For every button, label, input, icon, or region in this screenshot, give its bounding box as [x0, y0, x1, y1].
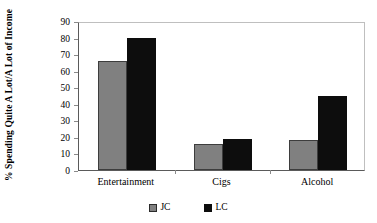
- bar-cigs-jc: [194, 144, 223, 170]
- x-axis-label-cigs: Cigs: [212, 176, 230, 187]
- y-axis-tick-label: 60: [46, 67, 70, 77]
- y-axis-tick-label: 80: [46, 34, 70, 44]
- y-axis-tick-label: 30: [46, 116, 70, 126]
- gray-swatch-icon: [149, 204, 157, 212]
- chart-legend: JCLC: [0, 200, 377, 216]
- legend-label-jc: JC: [160, 203, 170, 213]
- plot-area: [78, 22, 365, 171]
- black-swatch-icon: [204, 204, 212, 212]
- y-axis-tick-label: 20: [46, 133, 70, 143]
- x-axis-category-separator: [175, 170, 176, 174]
- x-axis-category-separator: [270, 170, 271, 174]
- bar-alcohol-lc: [318, 96, 347, 171]
- y-axis-tick-label: 0: [46, 166, 70, 176]
- x-axis-label-alcohol: Alcohol: [301, 176, 333, 187]
- y-axis-ticks: 9080706050403020100: [0, 0, 78, 223]
- x-axis-label-entertainment: Entertainment: [98, 176, 155, 187]
- bar-cigs-lc: [223, 139, 252, 170]
- bar-alcohol-jc: [289, 140, 318, 170]
- x-axis-category-labels: EntertainmentCigsAlcohol: [78, 176, 365, 192]
- bar-chart: % Spending Quite A Lot/A Lot of Income 9…: [0, 0, 377, 223]
- y-axis-tick-label: 70: [46, 50, 70, 60]
- y-axis-tick-mark: [74, 171, 78, 172]
- legend-item-lc: LC: [204, 203, 227, 213]
- legend-item-jc: JC: [149, 203, 170, 213]
- y-axis-tick-label: 10: [46, 149, 70, 159]
- y-axis-tick-label: 90: [46, 17, 70, 27]
- legend-label-lc: LC: [215, 203, 227, 213]
- y-axis-tick-label: 50: [46, 83, 70, 93]
- bar-entertainment-jc: [98, 61, 127, 170]
- bar-entertainment-lc: [127, 38, 156, 170]
- y-axis-tick-label: 40: [46, 100, 70, 110]
